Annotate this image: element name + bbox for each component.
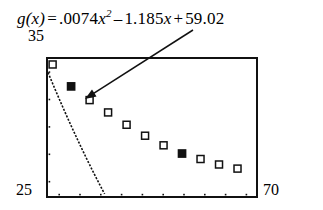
data-point-marker-open xyxy=(216,161,223,168)
x-tick-dot xyxy=(79,194,81,196)
regression-curve xyxy=(48,72,105,194)
data-point-marker-open xyxy=(123,121,130,128)
x-tick-dot xyxy=(183,194,185,196)
data-point-marker-open xyxy=(142,132,149,139)
data-point-marker-open xyxy=(105,109,112,116)
callout-arrow-line xyxy=(91,30,193,95)
y-tick-dot xyxy=(49,126,51,128)
callout-arrow-head xyxy=(85,90,97,99)
y-axis-ticks xyxy=(49,71,51,182)
x-tick-dot xyxy=(142,194,144,196)
data-point-marker-open xyxy=(234,165,241,172)
data-point-marker-open xyxy=(160,142,167,149)
data-point-marker-filled xyxy=(178,150,185,157)
y-tick-dot xyxy=(49,181,51,183)
data-point-marker-filled xyxy=(68,83,75,90)
x-tick-dot xyxy=(225,194,227,196)
data-point-markers xyxy=(49,61,241,172)
data-point-marker-open xyxy=(197,156,204,163)
x-tick-dot xyxy=(100,194,102,196)
x-axis-ticks xyxy=(58,194,247,196)
y-tick-dot xyxy=(49,154,51,156)
x-tick-dot xyxy=(246,194,248,196)
data-point-marker-open xyxy=(49,61,56,68)
x-tick-dot xyxy=(162,194,164,196)
graphing-calculator-figure: g(x)=.0074x2–1.185x+59.02 35 25 70 xyxy=(0,0,323,210)
callout-arrow xyxy=(85,30,193,99)
x-tick-dot xyxy=(121,194,123,196)
x-tick-dot xyxy=(58,194,60,196)
plot-canvas xyxy=(0,0,323,210)
y-tick-dot xyxy=(49,99,51,101)
x-tick-dot xyxy=(204,194,206,196)
